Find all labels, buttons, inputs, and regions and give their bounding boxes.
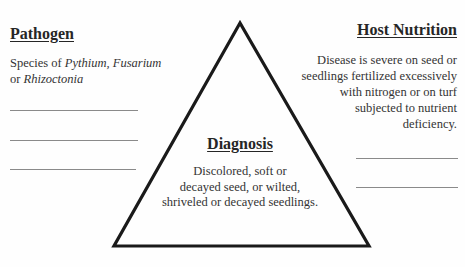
host-nutrition-line-1: Disease is severe on seed or [257, 52, 457, 68]
pathogen-text-prefix: Species of [10, 56, 65, 70]
host-nutrition-line-2: seedlings fertilized excessively [257, 68, 457, 84]
host-nutrition-line-5: deficiency. [257, 116, 457, 132]
pathogen-blank-line-3 [10, 169, 136, 170]
pathogen-heading: Pathogen [10, 25, 74, 43]
host-nutrition-line-3: with nitrogen or on turf [257, 84, 457, 100]
pathogen-blank-line-2 [10, 140, 138, 141]
pathogen-text-mid: or [10, 72, 24, 86]
pathogen-description: Species of Pythium, Fusarium or Rhizocto… [10, 55, 190, 87]
diagnosis-heading: Diagnosis [190, 135, 290, 153]
pathogen-genera-1: Pythium, Fusarium [65, 56, 162, 70]
diagnosis-line-3: shriveled or decayed seedlings. [150, 195, 330, 211]
host-nutrition-blank-line-1 [356, 158, 458, 159]
diagnosis-line-1: Discolored, soft or [150, 164, 330, 180]
host-nutrition-line-4: subjected to nutrient [257, 100, 457, 116]
pathogen-genera-2: Rhizoctonia [24, 72, 84, 86]
host-nutrition-description: Disease is severe on seed or seedlings f… [257, 52, 457, 132]
host-nutrition-heading: Host Nutrition [357, 21, 457, 39]
host-nutrition-blank-line-2 [356, 187, 458, 188]
diagnosis-line-2: decayed seed, or wilted, [150, 180, 330, 196]
diagnosis-description: Discolored, soft or decayed seed, or wil… [150, 164, 330, 211]
pathogen-blank-line-1 [10, 110, 138, 111]
